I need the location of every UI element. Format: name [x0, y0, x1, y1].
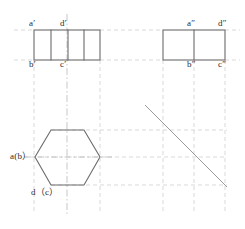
top-view-group [35, 130, 100, 185]
miter-line-45-degree [145, 105, 227, 187]
technical-drawing-canvas: a′ d′ b′ c′ a″ d″ b″ c″ a(b） d（c） [0, 0, 245, 229]
side-view-group [163, 30, 225, 60]
label-d-prime: d′ [60, 19, 67, 28]
label-b-double-prime: b″ [187, 60, 196, 69]
label-a-double-prime: a″ [187, 19, 195, 28]
label-c-double-prime: c″ [218, 60, 226, 69]
label-c-prime: c′ [60, 60, 66, 69]
label-d-double-prime: d″ [218, 19, 227, 28]
label-b-prime: b′ [29, 60, 36, 69]
label-d-c-top-view: d（c） [31, 188, 58, 197]
label-a-b-top-view: a(b） [10, 152, 31, 161]
miter-line-group [145, 105, 227, 187]
label-a-prime: a′ [29, 19, 35, 28]
top-view-hexagon [35, 130, 100, 185]
